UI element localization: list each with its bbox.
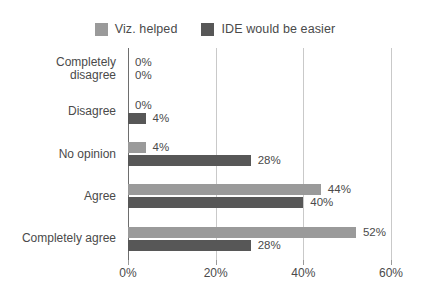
bar	[128, 184, 321, 195]
bar-group: 0%0%	[128, 48, 391, 90]
chart-legend: Viz. helped IDE would be easier	[0, 22, 430, 36]
legend-swatch-icon	[95, 23, 108, 36]
bar	[128, 113, 146, 124]
x-axis-label: 20%	[204, 266, 228, 280]
bar-row: 0%	[128, 57, 391, 68]
bar-chart: Viz. helped IDE would be easier Complete…	[0, 0, 430, 305]
y-axis-label-line: Completely agree	[0, 232, 116, 245]
bar-row: 44%	[128, 184, 391, 195]
bar	[128, 227, 356, 238]
legend-entry-viz-helped: Viz. helped	[95, 22, 178, 36]
legend-swatch-icon	[201, 23, 214, 36]
y-axis-label: Completely agree	[0, 232, 116, 245]
y-axis-label-line: disagree	[0, 69, 116, 82]
bar-value-label: 28%	[258, 240, 281, 251]
bar-value-label: 44%	[328, 184, 351, 195]
gridline	[391, 48, 392, 260]
bar-row: 40%	[128, 197, 391, 208]
plot-area: 0%0%0%4%4%28%44%40%52%28%	[128, 48, 391, 260]
y-axis-label-line: Disagree	[0, 105, 116, 118]
bar-row: 52%	[128, 227, 391, 238]
y-axis-label: Agree	[0, 190, 116, 203]
legend-label: IDE would be easier	[221, 22, 335, 36]
bar-row: 28%	[128, 155, 391, 166]
bar-value-label: 40%	[310, 197, 333, 208]
legend-entry-ide-would-be-easier: IDE would be easier	[201, 22, 335, 36]
bar-value-label: 0%	[135, 100, 152, 111]
bar-group: 52%28%	[128, 218, 391, 260]
bar-group: 44%40%	[128, 175, 391, 217]
x-axis-label: 0%	[119, 266, 136, 280]
y-axis-label: Completelydisagree	[0, 56, 116, 82]
x-axis-label: 40%	[291, 266, 315, 280]
bar-row: 28%	[128, 240, 391, 251]
legend-label: Viz. helped	[115, 22, 178, 36]
bar-value-label: 28%	[258, 155, 281, 166]
bar-row: 4%	[128, 113, 391, 124]
bar-row: 0%	[128, 70, 391, 81]
x-axis-tick	[391, 260, 392, 265]
bar-value-label: 4%	[153, 113, 170, 124]
x-axis-tick	[303, 260, 304, 265]
bar	[128, 197, 303, 208]
bar-row: 0%	[128, 100, 391, 111]
y-axis-labels: CompletelydisagreeDisagreeNo opinionAgre…	[0, 48, 122, 260]
bar	[128, 240, 251, 251]
bar-value-label: 0%	[135, 70, 152, 81]
x-axis-tick	[216, 260, 217, 265]
x-axis-tick	[128, 260, 129, 265]
bar-value-label: 4%	[153, 142, 170, 153]
bar-value-label: 52%	[363, 227, 386, 238]
y-axis-label: No opinion	[0, 148, 116, 161]
bar-row: 4%	[128, 142, 391, 153]
bar-group: 0%4%	[128, 90, 391, 132]
bar-group: 4%28%	[128, 133, 391, 175]
y-axis-label: Disagree	[0, 105, 116, 118]
bar-value-label: 0%	[135, 57, 152, 68]
y-axis-label-line: No opinion	[0, 148, 116, 161]
x-axis-label: 60%	[379, 266, 403, 280]
bar	[128, 142, 146, 153]
y-axis-label-line: Agree	[0, 190, 116, 203]
bar	[128, 155, 251, 166]
x-axis-labels: 0%20%40%60%	[128, 266, 391, 286]
